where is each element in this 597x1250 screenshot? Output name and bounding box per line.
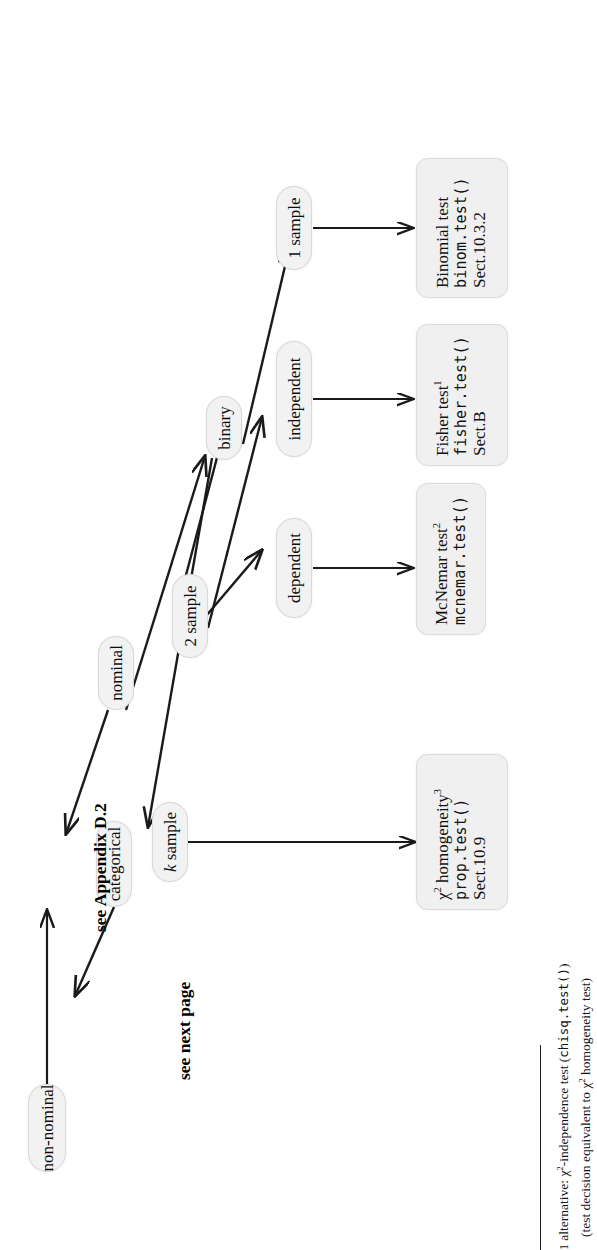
note-see-appendix-label: see Appendix D.2 bbox=[90, 803, 110, 932]
node-2-sample[interactable]: 2 sample bbox=[172, 574, 208, 658]
leaf-mcnemar-title-text: McNemar test bbox=[432, 528, 451, 625]
leaf-fisher-title-text: Fisher test bbox=[433, 386, 452, 456]
node-k-sample-suffix: sample bbox=[161, 812, 180, 864]
footnote-1: 1 alternative: χ2-independence test (chi… bbox=[556, 964, 572, 1250]
footnote-separator bbox=[540, 1045, 541, 1250]
node-k-sample-label: k sample bbox=[162, 812, 179, 872]
node-binary[interactable]: binary bbox=[206, 396, 242, 460]
leaf-fisher-footnote-marker: 1 bbox=[433, 380, 444, 385]
footnote-2-chi-exponent: 2 bbox=[578, 1078, 587, 1082]
leaf-mcnemar-title: McNemar test2 bbox=[432, 493, 451, 625]
footnote-1-text-b: -independence test ( bbox=[556, 1058, 571, 1167]
node-binary-label: binary bbox=[216, 406, 233, 449]
leaf-mcnemar-test[interactable]: McNemar test2 mcnemar.test() bbox=[416, 483, 486, 635]
leaf-mcnemar-code: mcnemar.test() bbox=[451, 493, 469, 625]
footnote-1-marker: 1 bbox=[557, 1244, 571, 1250]
leaf-binomial-title: Binomial test bbox=[433, 168, 452, 288]
footnote-1-text-c: ) bbox=[556, 964, 571, 969]
node-dependent-label: dependent bbox=[286, 533, 303, 603]
node-k-sample[interactable]: k sample bbox=[152, 802, 188, 882]
leaf-fisher-section: Sect.B bbox=[470, 334, 490, 456]
note-see-appendix: see Appendix D.2 bbox=[90, 803, 111, 932]
node-nominal[interactable]: nominal bbox=[98, 636, 134, 710]
node-2-sample-label: 2 sample bbox=[182, 586, 199, 647]
footnote-2-text-b: homogeneity test) bbox=[578, 978, 593, 1078]
footnote-1-continuation: (test decision equivalent to χ2 homogene… bbox=[578, 978, 594, 1237]
node-independent-label: independent bbox=[286, 357, 303, 440]
leaf-chisq-footnote-marker: 3 bbox=[433, 789, 444, 794]
leaf-chisq-homogeneity[interactable]: χ2 homogeneity3 prop.test() Sect.10.9 bbox=[416, 754, 508, 910]
node-non-nominal-label: non-nominal bbox=[39, 1085, 56, 1172]
leaf-chisq-title: χ2 homogeneity3 bbox=[433, 764, 452, 900]
leaf-fisher-title: Fisher test1 bbox=[433, 334, 452, 456]
footnote-1-text-a: alternative: χ bbox=[556, 1171, 571, 1241]
node-independent[interactable]: independent bbox=[276, 341, 312, 457]
leaf-chisq-section: Sect.10.9 bbox=[470, 764, 490, 900]
leaf-chisq-word: homogeneity bbox=[433, 794, 452, 887]
leaf-chisq-exponent: 2 bbox=[433, 887, 444, 892]
leaf-chisq-code: prop.test() bbox=[452, 764, 470, 900]
leaf-fisher-test[interactable]: Fisher test1 fisher.test() Sect.B bbox=[416, 324, 508, 466]
footnote-2-text-a: (test decision equivalent to χ bbox=[578, 1083, 593, 1237]
leaf-binomial-test[interactable]: Binomial test binom.test() Sect.10.3.2 bbox=[416, 158, 508, 298]
figure-canvas: non-nominal nominal categorical binary k… bbox=[0, 0, 597, 1250]
node-dependent[interactable]: dependent bbox=[276, 518, 312, 618]
leaf-binomial-code: binom.test() bbox=[452, 168, 470, 288]
node-k-sample-var: k bbox=[161, 864, 180, 872]
leaf-fisher-code: fisher.test() bbox=[452, 334, 470, 456]
note-see-next-page-label: see next page bbox=[174, 982, 194, 1080]
leaf-chisq-chi: χ bbox=[433, 892, 452, 900]
note-see-next-page: see next page bbox=[174, 982, 195, 1080]
leaf-binomial-section: Sect.10.3.2 bbox=[470, 168, 490, 288]
node-1-sample[interactable]: 1 sample bbox=[276, 186, 312, 270]
node-nominal-label: nominal bbox=[108, 645, 125, 701]
footnote-1-code: chisq.test() bbox=[556, 968, 571, 1058]
leaf-mcnemar-footnote-marker: 2 bbox=[431, 523, 442, 528]
node-1-sample-label: 1 sample bbox=[286, 198, 303, 259]
footnote-1-chi-exponent: 2 bbox=[556, 1166, 565, 1170]
node-non-nominal[interactable]: non-nominal bbox=[28, 1084, 66, 1172]
